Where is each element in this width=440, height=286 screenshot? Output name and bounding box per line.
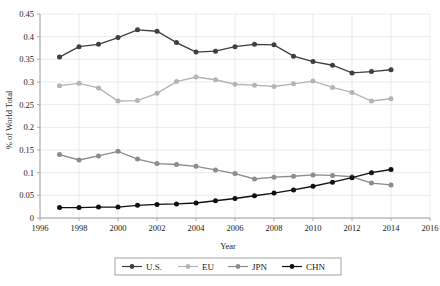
series-line: [60, 169, 392, 207]
data-point: [96, 153, 101, 158]
data-point: [116, 99, 121, 104]
data-point: [155, 161, 160, 166]
legend-label: JPN: [252, 262, 268, 272]
y-tick-label: 0.35: [19, 54, 34, 64]
x-tick-label: 1998: [71, 223, 88, 233]
x-tick-label: 2002: [149, 223, 166, 233]
data-point: [77, 44, 82, 49]
data-point: [174, 201, 179, 206]
data-point: [389, 167, 394, 172]
legend-marker-dot: [290, 264, 295, 269]
x-tick-label: 2014: [383, 223, 401, 233]
data-point: [291, 81, 296, 86]
data-point: [252, 42, 257, 47]
data-point: [155, 91, 160, 96]
data-point: [311, 59, 316, 64]
series-us: [57, 27, 394, 75]
data-point: [135, 98, 140, 103]
data-point: [96, 85, 101, 90]
x-tick-label: 2016: [422, 223, 439, 233]
series-chn: [57, 167, 394, 210]
data-point: [272, 175, 277, 180]
legend-marker-dot: [130, 264, 135, 269]
data-point: [96, 205, 101, 210]
y-tick-label: 0: [30, 213, 34, 223]
data-point: [213, 49, 218, 54]
data-point: [116, 35, 121, 40]
data-point: [174, 79, 179, 84]
data-point: [213, 77, 218, 82]
data-point: [96, 42, 101, 47]
data-point: [174, 162, 179, 167]
data-point: [311, 172, 316, 177]
data-point: [135, 157, 140, 162]
data-point: [135, 203, 140, 208]
x-axis-tick-labels: 1996199820002002200420062008201020122014…: [32, 223, 439, 233]
y-tick-label: 0.3: [23, 77, 34, 87]
x-tick-label: 2006: [227, 223, 244, 233]
legend-label: CHN: [306, 262, 326, 272]
data-point: [330, 85, 335, 90]
data-point: [369, 170, 374, 175]
data-point: [330, 180, 335, 185]
data-point: [233, 171, 238, 176]
data-point: [233, 44, 238, 49]
data-point: [155, 202, 160, 207]
legend-label: EU: [202, 262, 214, 272]
x-tick-label: 2012: [344, 223, 361, 233]
y-axis-title: % of World Total: [4, 90, 14, 149]
data-point: [369, 99, 374, 104]
y-tick-label: 0.2: [23, 122, 34, 132]
y-tick-label: 0.25: [19, 100, 34, 110]
data-point: [116, 149, 121, 154]
data-point: [213, 167, 218, 172]
x-axis-title: Year: [220, 241, 236, 251]
series-line: [60, 77, 392, 101]
y-axis-tick-labels: 00.050.10.150.20.250.30.350.40.45: [19, 9, 35, 223]
data-point: [155, 29, 160, 34]
x-tick-label: 2000: [110, 223, 127, 233]
y-tick-label: 0.15: [19, 145, 34, 155]
data-point: [389, 67, 394, 72]
data-point: [369, 69, 374, 74]
data-point: [57, 205, 62, 210]
data-point: [330, 173, 335, 178]
data-point: [233, 196, 238, 201]
data-point: [57, 152, 62, 157]
x-tick-label: 2008: [266, 223, 283, 233]
data-point: [291, 187, 296, 192]
data-point: [272, 84, 277, 89]
legend-marker-dot: [186, 264, 191, 269]
y-tick-label: 0.45: [19, 9, 34, 19]
x-tick-label: 2010: [305, 223, 322, 233]
series-jpn: [57, 149, 394, 188]
data-point: [194, 164, 199, 169]
x-tick-label: 1996: [32, 223, 49, 233]
data-point: [369, 181, 374, 186]
data-point: [389, 96, 394, 101]
data-point: [291, 54, 296, 59]
data-point: [194, 75, 199, 80]
data-point: [252, 193, 257, 198]
data-point: [213, 198, 218, 203]
data-point: [350, 175, 355, 180]
data-point: [252, 177, 257, 182]
data-point: [77, 205, 82, 210]
data-point: [389, 182, 394, 187]
x-tick-label: 2004: [188, 223, 206, 233]
data-point: [174, 40, 179, 45]
data-point: [57, 55, 62, 60]
data-series-group: [57, 27, 394, 210]
data-point: [291, 174, 296, 179]
data-point: [311, 79, 316, 84]
chart-legend: U.S.EUJPNCHN: [115, 258, 341, 275]
data-point: [194, 201, 199, 206]
legend-label: U.S.: [146, 262, 162, 272]
data-point: [135, 27, 140, 32]
line-chart: 00.050.10.150.20.250.30.350.40.45 199619…: [0, 0, 440, 286]
chart-container: 00.050.10.150.20.250.30.350.40.45 199619…: [0, 0, 440, 286]
data-point: [350, 70, 355, 75]
data-point: [116, 205, 121, 210]
data-point: [330, 63, 335, 68]
series-eu: [57, 75, 394, 104]
